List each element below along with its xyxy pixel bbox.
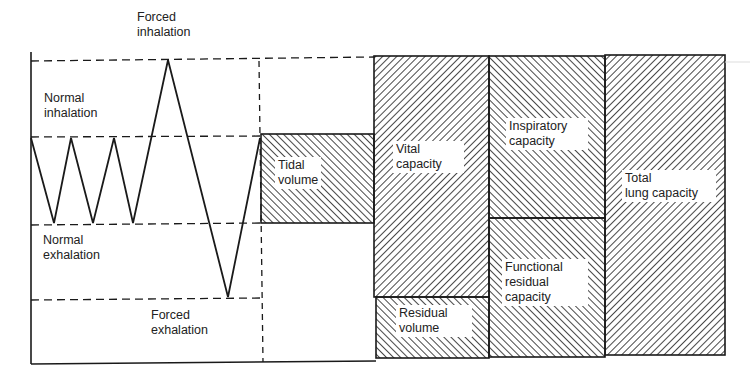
functional-residual-capacity-label: Functional residual capacity xyxy=(502,259,588,306)
total-lung-capacity-block xyxy=(605,55,725,355)
forced-exhalation-label: Forced exhalation xyxy=(151,308,208,338)
tidal-volume-label: Tidal volume xyxy=(275,157,321,189)
vital-capacity-label: Vital capacity xyxy=(393,141,464,173)
normal-inhalation-label: Normal inhalation xyxy=(44,91,98,121)
vital-capacity-block xyxy=(374,56,489,297)
forced-inhalation-label: Forced inhalation xyxy=(137,10,191,40)
residual-volume-label: Residual volume xyxy=(396,305,472,337)
normal-exhalation-label: Normal exhalation xyxy=(43,233,100,263)
total-lung-capacity-label: Total lung capacity xyxy=(622,170,716,202)
inspiratory-capacity-label: Inspiratory capacity xyxy=(506,118,588,150)
